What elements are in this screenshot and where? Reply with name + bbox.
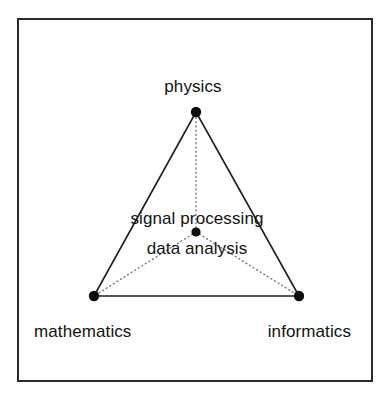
vertex-dot-physics[interactable] xyxy=(191,107,201,117)
vertex-dot-informatics[interactable] xyxy=(294,291,304,301)
center-dot[interactable] xyxy=(191,227,200,236)
triangle-diagram: physics mathematics informatics signal p… xyxy=(0,0,392,402)
figure-root: physics mathematics informatics signal p… xyxy=(0,0,392,402)
vertex-label-informatics: informatics xyxy=(268,322,351,341)
vertex-label-physics: physics xyxy=(164,77,221,96)
center-label-line-2: data analysis xyxy=(147,239,248,258)
vertex-dot-mathematics[interactable] xyxy=(89,291,99,301)
vertex-label-mathematics: mathematics xyxy=(34,322,131,341)
center-label-line-1: signal processing xyxy=(130,209,263,228)
